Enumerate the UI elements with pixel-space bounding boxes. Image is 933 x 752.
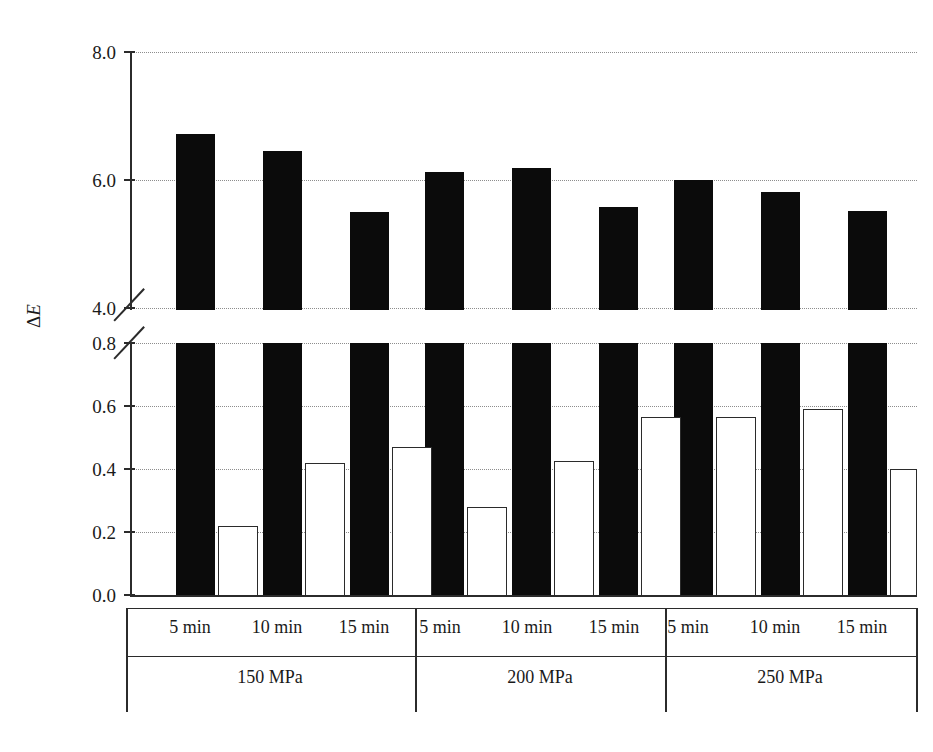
- gridline-8-0: [131, 52, 917, 53]
- bar-solid-6-lower: [599, 343, 638, 595]
- bar-solid-4: [425, 172, 464, 310]
- category-label-5: 10 min: [477, 617, 577, 638]
- y-axis-label: ΔE: [14, 296, 54, 336]
- bar-solid-1: [176, 134, 215, 310]
- bar-open-6: [641, 417, 681, 595]
- bar-open-3: [392, 447, 432, 595]
- bar-solid-7: [674, 180, 713, 310]
- group-row-sep-2: [665, 656, 667, 712]
- bar-solid-2-lower: [263, 343, 302, 595]
- bar-solid-2: [263, 151, 302, 310]
- upper-tick-6-0: [124, 179, 135, 181]
- lower-ytick-label-0-0: 0.0: [62, 586, 116, 605]
- bar-open-7: [716, 417, 756, 595]
- upper-ytick-label-6-0: 6.0: [62, 171, 116, 190]
- lower-tick-0-2: [124, 531, 135, 533]
- category-row-tick-right: [916, 608, 918, 656]
- axis-break-slash-upper: [113, 288, 144, 321]
- category-label-1: 5 min: [140, 617, 240, 638]
- bar-open-1: [218, 526, 258, 595]
- bar-open-9: [890, 469, 917, 595]
- lower-tick-0-6: [124, 405, 135, 407]
- bar-open-5: [554, 461, 594, 595]
- bar-solid-9: [848, 211, 887, 310]
- y-axis-label-delta: Δ: [23, 316, 45, 328]
- upper-tick-8-0: [124, 51, 135, 53]
- bar-solid-9-lower: [848, 343, 887, 595]
- lower-tick-0-8: [124, 342, 135, 344]
- bar-open-4: [467, 507, 507, 595]
- bar-solid-5: [512, 168, 551, 310]
- upper-ytick-label-4-0: 4.0: [62, 299, 116, 318]
- bar-solid-3: [350, 212, 389, 310]
- group-label-150mpa: 150 MPa: [220, 667, 320, 688]
- upper-ytick-label-8-0: 8.0: [62, 43, 116, 62]
- category-label-8: 10 min: [725, 617, 825, 638]
- category-label-2: 10 min: [227, 617, 327, 638]
- category-row-top-line: [126, 608, 917, 609]
- bar-solid-1-lower: [176, 343, 215, 595]
- bar-open-8: [803, 409, 843, 595]
- category-label-9: 15 min: [812, 617, 912, 638]
- lower-ytick-label-0-2: 0.2: [62, 523, 116, 542]
- lower-tick-0-0: [124, 594, 135, 596]
- bar-solid-3-lower: [350, 343, 389, 595]
- group-row-tick-left: [126, 656, 128, 712]
- group-label-200mpa: 200 MPa: [490, 667, 590, 688]
- lower-ytick-label-0-6: 0.6: [62, 397, 116, 416]
- lower-ytick-label-0-4: 0.4: [62, 460, 116, 479]
- x-axis-baseline: [130, 595, 917, 597]
- chart-canvas: ΔE 8.0 6.0 4.0: [0, 0, 933, 752]
- group-row-sep-1: [415, 656, 417, 712]
- category-label-4: 5 min: [390, 617, 490, 638]
- group-row-top-line: [126, 656, 917, 657]
- lower-tick-0-4: [124, 468, 135, 470]
- group-label-250mpa: 250 MPa: [740, 667, 840, 688]
- bar-solid-5-lower: [512, 343, 551, 595]
- upper-y-axis-line: [130, 52, 132, 310]
- category-label-7: 5 min: [638, 617, 738, 638]
- lower-ytick-label-0-8: 0.8: [62, 334, 116, 353]
- y-axis-label-e: E: [23, 304, 45, 316]
- bar-solid-8-lower: [761, 343, 800, 595]
- category-row-tick-left: [126, 608, 128, 656]
- group-row-tick-right: [916, 656, 918, 712]
- bar-solid-8: [761, 192, 800, 310]
- bar-open-2: [305, 463, 345, 595]
- bar-solid-6: [599, 207, 638, 310]
